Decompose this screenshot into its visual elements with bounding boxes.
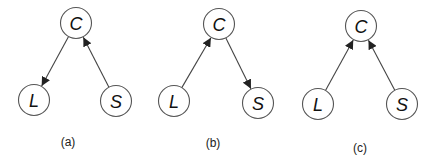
node-l: L — [19, 85, 50, 116]
node-label: S — [252, 94, 264, 114]
node-label: S — [110, 92, 122, 112]
panels: CLS(a)CLS(b)CLS(c) — [19, 8, 418, 156]
panel-caption: (b) — [206, 136, 221, 150]
panel-caption: (c) — [353, 141, 367, 155]
node-label: L — [169, 92, 179, 112]
edge-S-to-C — [368, 40, 394, 90]
node-l: L — [303, 89, 334, 120]
node-c: C — [61, 8, 92, 39]
edge-L-to-C — [325, 40, 353, 90]
node-c: C — [346, 11, 377, 42]
node-label: L — [313, 95, 323, 115]
panel-c: CLS(c) — [303, 11, 418, 156]
node-label: C — [213, 15, 227, 35]
node-label: S — [396, 95, 408, 115]
panel-caption: (a) — [61, 135, 76, 149]
node-label: C — [70, 14, 84, 34]
node-s: S — [387, 89, 418, 120]
node-s: S — [101, 86, 132, 117]
panel-b: CLS(b) — [159, 9, 274, 151]
causal-graph-diagram: CLS(a)CLS(b)CLS(c) — [0, 0, 439, 164]
edge-L-to-C — [182, 38, 211, 88]
node-s: S — [243, 88, 274, 119]
node-l: L — [159, 86, 190, 117]
node-label: C — [355, 17, 369, 37]
node-c: C — [204, 9, 235, 40]
edge-C-to-L — [42, 37, 69, 86]
panel-a: CLS(a) — [19, 8, 132, 150]
edge-C-to-S — [226, 38, 251, 89]
edge-S-to-C — [83, 37, 109, 87]
node-label: L — [29, 91, 39, 111]
